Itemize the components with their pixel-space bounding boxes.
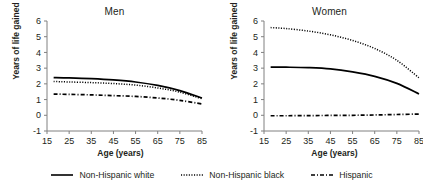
- x-tick-label: 35: [303, 136, 313, 146]
- y-tick-label: 6: [36, 16, 41, 26]
- x-tick-label: 75: [175, 136, 185, 146]
- x-tick-label: 45: [325, 136, 335, 146]
- series-line: [271, 114, 419, 116]
- y-tick-label: 3: [253, 63, 258, 73]
- chart-panel-women: Women Years of life gained -101234561525…: [212, 0, 423, 160]
- dash-dot-line-swatch: [310, 170, 334, 180]
- x-axis-label-women: Age (years): [212, 148, 423, 158]
- y-tick-label: 4: [36, 48, 41, 58]
- dotted-line-swatch: [180, 170, 204, 180]
- y-tick-label: -1: [33, 126, 41, 136]
- y-tick-label: 1: [253, 95, 258, 105]
- y-tick-label: 4: [253, 48, 258, 58]
- legend-item: Non-Hispanic white: [50, 170, 154, 180]
- y-tick-label: 2: [253, 79, 258, 89]
- legend: Non-Hispanic white Non-Hispanic black Hi…: [0, 162, 423, 188]
- x-tick-label: 25: [64, 136, 74, 146]
- figure: Men Years of life gained -10123456152535…: [0, 0, 423, 188]
- x-tick-label: 35: [86, 136, 96, 146]
- y-tick-label: 0: [36, 110, 41, 120]
- series-line: [271, 67, 419, 94]
- legend-label: Hispanic: [339, 170, 372, 180]
- y-tick-label: 0: [253, 110, 258, 120]
- plot-area-women: -101234561525354555657585: [212, 0, 423, 160]
- y-tick-label: 6: [253, 16, 258, 26]
- y-tick-label: 2: [36, 79, 41, 89]
- x-tick-label: 65: [370, 136, 380, 146]
- x-tick-label: 15: [259, 136, 269, 146]
- legend-item: Non-Hispanic black: [180, 170, 284, 180]
- y-tick-label: 1: [36, 95, 41, 105]
- x-tick-label: 25: [281, 136, 291, 146]
- series-line: [54, 78, 202, 98]
- x-tick-label: 55: [131, 136, 141, 146]
- series-line: [54, 94, 202, 104]
- legend-item: Hispanic: [310, 170, 372, 180]
- y-tick-label: 3: [36, 63, 41, 73]
- y-tick-label: 5: [36, 32, 41, 42]
- chart-panel-men: Men Years of life gained -10123456152535…: [0, 0, 211, 160]
- x-axis-label-men: Age (years): [0, 148, 211, 158]
- plot-area-men: -101234561525354555657585: [0, 0, 211, 160]
- x-tick-label: 75: [392, 136, 402, 146]
- legend-label: Non-Hispanic white: [79, 170, 154, 180]
- solid-line-swatch: [50, 170, 74, 180]
- y-tick-label: 5: [253, 32, 258, 42]
- x-tick-label: 55: [348, 136, 358, 146]
- x-tick-label: 65: [153, 136, 163, 146]
- x-tick-label: 45: [108, 136, 118, 146]
- legend-label: Non-Hispanic black: [209, 170, 284, 180]
- y-tick-label: -1: [250, 126, 258, 136]
- x-tick-label: 85: [197, 136, 207, 146]
- x-tick-label: 15: [42, 136, 52, 146]
- x-tick-label: 85: [414, 136, 423, 146]
